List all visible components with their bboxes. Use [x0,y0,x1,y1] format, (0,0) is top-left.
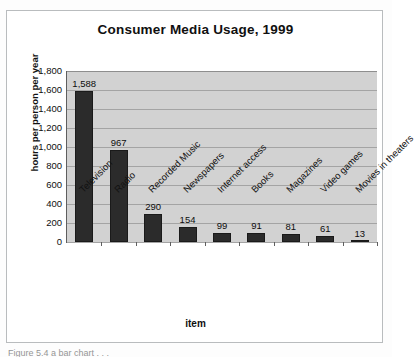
y-axis-tick-label: 1,200 [29,123,62,133]
y-axis-tick-label: 1,800 [29,66,62,76]
y-axis-tick-labels: 1,8001,6001,4001,2001,0008006004002000 [29,67,62,249]
chart-title: Consumer Media Usage, 1999 [7,22,384,37]
bar-value-label: 1,588 [62,79,106,89]
figure-caption-text: Figure 5.4 a bar chart . . . [8,348,384,357]
x-axis-title: item [7,318,384,329]
x-axis-category-labels: TelevisionRadioRecorded MusicNewspapersI… [66,187,386,277]
y-axis-tick-label: 400 [29,199,62,209]
figure-caption: Figure 5.4 a bar chart . . . [8,348,384,357]
gridline [67,128,377,129]
y-axis-tick-label: 800 [29,161,62,171]
chart-figure-frame: Consumer Media Usage, 1999 hours per per… [6,10,383,343]
y-axis-tick-label: 0 [29,237,62,247]
bar-value-label: 967 [97,138,141,148]
y-axis-tick-label: 1,600 [29,85,62,95]
y-axis-tick-label: 200 [29,218,62,228]
y-axis-tick-label: 1,000 [29,142,62,152]
gridline [67,90,377,91]
gridline [67,109,377,110]
plot-top-gridline [67,71,377,72]
y-axis-tick-label: 1,400 [29,104,62,114]
y-axis-tick-label: 600 [29,180,62,190]
